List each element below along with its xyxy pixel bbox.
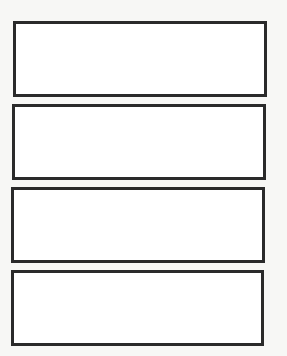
empty-box-2 (12, 104, 266, 180)
empty-box-4 (11, 270, 264, 346)
empty-box-1 (13, 21, 267, 97)
empty-box-3 (11, 187, 265, 263)
